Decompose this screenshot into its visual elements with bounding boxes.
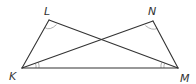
segment-LM <box>49 20 178 68</box>
vertex-label-L: L <box>44 5 50 18</box>
segment-KL <box>22 20 49 68</box>
vertex-label-N: N <box>148 5 156 18</box>
segment-KN <box>22 21 153 68</box>
angle-arcs <box>35 25 164 68</box>
vertex-label-K: K <box>9 70 17 83</box>
angle-arc-M-2 <box>161 63 162 69</box>
segments <box>22 20 178 68</box>
angle-arc-K-1 <box>35 64 36 69</box>
segment-NM <box>153 21 178 68</box>
angle-arc-M-1 <box>164 64 165 68</box>
vertex-label-M: M <box>180 72 190 84</box>
triangle-diagram: L N K M <box>0 0 196 84</box>
angle-arc-K-2 <box>38 62 39 68</box>
